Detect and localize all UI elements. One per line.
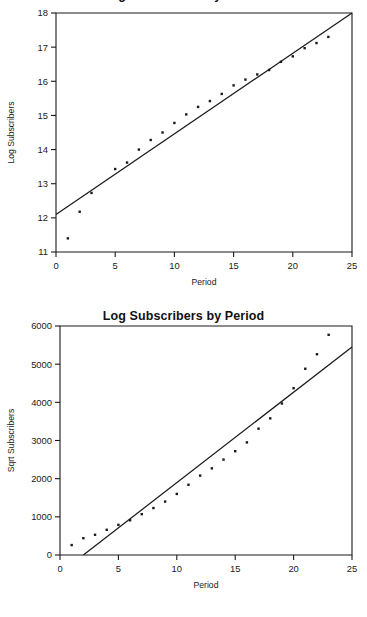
y-tick-label: 6000	[31, 320, 52, 331]
chart-sqrt-subscribers: Log Subscribers by Period 01000200030004…	[0, 300, 367, 617]
y-tick-label: 3000	[31, 435, 52, 446]
data-point	[78, 211, 80, 213]
data-point	[327, 334, 329, 336]
y-axis-title: Log Subscribers	[6, 101, 16, 163]
data-point	[138, 148, 140, 150]
data-point	[316, 353, 318, 355]
data-point	[94, 534, 96, 536]
x-tick-label: 20	[288, 260, 298, 271]
data-point	[244, 78, 246, 80]
x-tick-label: 25	[347, 563, 357, 574]
x-tick-label: 20	[288, 563, 298, 574]
x-tick-label: 5	[113, 260, 118, 271]
data-point	[126, 161, 128, 163]
x-tick-label: 0	[57, 563, 62, 574]
x-tick-label: 10	[169, 260, 179, 271]
data-point	[246, 441, 248, 443]
x-tick-label: 0	[53, 260, 58, 271]
x-tick-label: 25	[347, 260, 357, 271]
plot-frame	[60, 326, 352, 555]
plot-frame	[56, 13, 352, 252]
x-tick-label: 15	[230, 563, 240, 574]
y-tick-label: 1000	[31, 511, 52, 522]
data-point	[114, 168, 116, 170]
data-point	[70, 544, 72, 546]
y-tick-label: 14	[38, 144, 48, 155]
data-point	[221, 93, 223, 95]
data-point	[292, 387, 294, 389]
data-point	[106, 529, 108, 531]
data-point	[269, 417, 271, 419]
data-point-group	[67, 36, 330, 240]
data-point	[82, 537, 84, 539]
x-tick-label: 10	[172, 563, 182, 574]
data-point	[234, 450, 236, 452]
data-point	[304, 368, 306, 370]
y-tick-label: 15	[38, 110, 48, 121]
data-point	[232, 84, 234, 86]
data-point	[176, 493, 178, 495]
data-point	[150, 139, 152, 141]
data-point	[173, 122, 175, 124]
y-tick-label: 16	[38, 76, 48, 87]
data-point	[117, 524, 119, 526]
data-point	[257, 427, 259, 429]
data-point	[141, 513, 143, 515]
regression-line	[56, 13, 352, 214]
data-point	[197, 106, 199, 108]
data-point	[256, 73, 258, 75]
y-tick-label: 12	[38, 212, 48, 223]
y-axis-title: Sqrt Subscribers	[6, 409, 16, 473]
y-tick-label: 4000	[31, 397, 52, 408]
x-tick-label: 15	[228, 260, 238, 271]
y-tick-label: 5000	[31, 359, 52, 370]
data-point-group	[70, 334, 329, 547]
data-point	[90, 192, 92, 194]
data-point	[315, 42, 317, 44]
data-point	[187, 484, 189, 486]
y-tick-label: 13	[38, 178, 48, 189]
y-tick-label: 18	[38, 7, 48, 18]
x-axis-title: Period	[194, 580, 219, 590]
y-tick-label: 11	[38, 246, 48, 257]
chart-1-plot: 11121314151617180510152025PeriodLog Subs…	[0, 0, 367, 300]
y-tick-label: 2000	[31, 473, 52, 484]
data-point	[292, 55, 294, 57]
data-point	[185, 113, 187, 115]
data-point	[303, 47, 305, 49]
y-tick-label: 17	[38, 42, 48, 53]
data-point	[327, 36, 329, 38]
chart-2-plot: 01000200030004000500060000510152025Perio…	[0, 300, 367, 617]
data-point	[164, 500, 166, 502]
data-point	[199, 474, 201, 476]
data-point	[161, 131, 163, 133]
data-point	[67, 237, 69, 239]
chart-log-subscribers: Log Subscribers by Period 11121314151617…	[0, 0, 367, 300]
data-point	[209, 100, 211, 102]
data-point	[152, 507, 154, 509]
x-axis-title: Period	[192, 277, 217, 287]
regression-line	[83, 347, 352, 555]
data-point	[211, 467, 213, 469]
y-tick-label: 0	[47, 549, 52, 560]
x-tick-label: 5	[116, 563, 121, 574]
data-point	[222, 458, 224, 460]
